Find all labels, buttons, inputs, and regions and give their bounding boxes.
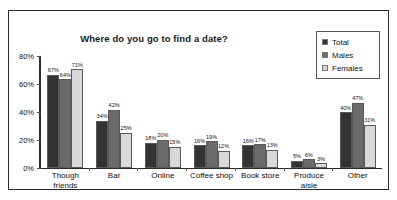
bar-slot: 5% bbox=[291, 57, 303, 168]
category-label: Produceaisle bbox=[285, 171, 334, 190]
category-label-line: Other bbox=[333, 171, 382, 181]
bar-value-label: 16% bbox=[194, 139, 205, 145]
bar-females[interactable] bbox=[120, 133, 132, 168]
bar-males[interactable] bbox=[206, 141, 218, 167]
bar-slot: 40% bbox=[340, 57, 352, 168]
bar-group: 16%17%13% bbox=[236, 57, 285, 168]
bar-males[interactable] bbox=[303, 159, 315, 167]
y-tick-mark: 0% bbox=[37, 168, 41, 169]
category-label: Book store bbox=[236, 171, 285, 190]
bar-value-label: 64% bbox=[60, 73, 71, 79]
category-label: Thoughfriends bbox=[41, 171, 90, 190]
category-label-line: Though bbox=[41, 171, 90, 181]
plot-area: 0%20%40%60%80% 67%64%71%34%42%25%18%20%1… bbox=[39, 57, 382, 169]
bar-males[interactable] bbox=[254, 144, 266, 167]
y-tick-label: 0% bbox=[23, 164, 34, 173]
bar-males[interactable] bbox=[108, 110, 120, 168]
chart-frame: Where do you go to find a date? TotalMal… bbox=[8, 10, 389, 190]
bar-value-label: 6% bbox=[305, 153, 313, 159]
bar-total[interactable] bbox=[96, 121, 108, 168]
bar-females[interactable] bbox=[364, 125, 376, 168]
bar-group: 34%42%25% bbox=[90, 57, 139, 168]
bar-total[interactable] bbox=[194, 145, 206, 167]
bar-group: 18%20%15% bbox=[138, 57, 187, 168]
bar-value-label: 15% bbox=[169, 140, 180, 146]
bar-group: 40%47%31% bbox=[333, 57, 382, 168]
bar-value-label: 47% bbox=[352, 96, 363, 102]
y-tick-label: 40% bbox=[19, 108, 34, 117]
bar-value-label: 3% bbox=[317, 157, 325, 163]
bar-total[interactable] bbox=[291, 161, 303, 168]
bar-slot: 3% bbox=[315, 57, 327, 168]
bar-group: 67%64%71% bbox=[41, 57, 90, 168]
bar-slot: 47% bbox=[352, 57, 364, 168]
category-label-line: Bar bbox=[90, 171, 139, 181]
bar-males[interactable] bbox=[59, 79, 71, 167]
bar-slot: 71% bbox=[71, 57, 83, 168]
category-label: Coffee shop bbox=[187, 171, 236, 190]
bar-females[interactable] bbox=[71, 69, 83, 167]
bar-value-label: 20% bbox=[157, 133, 168, 139]
bar-slot: 34% bbox=[96, 57, 108, 168]
bar-value-label: 16% bbox=[243, 139, 254, 145]
bar-females[interactable] bbox=[315, 163, 327, 167]
bar-slot: 16% bbox=[242, 57, 254, 168]
bar-value-label: 25% bbox=[121, 126, 132, 132]
y-tick-label: 60% bbox=[19, 80, 34, 89]
bar-slot: 42% bbox=[108, 57, 120, 168]
bar-value-label: 17% bbox=[255, 138, 266, 144]
chart-title: Where do you go to find a date? bbox=[9, 33, 299, 44]
bar-slot: 17% bbox=[254, 57, 266, 168]
bar-females[interactable] bbox=[266, 150, 278, 168]
y-tick-label: 20% bbox=[19, 136, 34, 145]
bar-value-label: 12% bbox=[218, 144, 229, 150]
bar-females[interactable] bbox=[169, 147, 181, 168]
category-label-line: friends bbox=[41, 181, 90, 191]
bar-value-label: 42% bbox=[109, 103, 120, 109]
category-label-line: aisle bbox=[285, 181, 334, 191]
bar-value-label: 19% bbox=[206, 135, 217, 141]
bar-slot: 12% bbox=[218, 57, 230, 168]
bar-value-label: 5% bbox=[293, 154, 301, 160]
bar-value-label: 71% bbox=[72, 63, 83, 69]
bar-slot: 13% bbox=[266, 57, 278, 168]
bar-slot: 25% bbox=[120, 57, 132, 168]
bar-total[interactable] bbox=[340, 112, 352, 167]
bar-value-label: 31% bbox=[364, 118, 375, 124]
bar-groups: 67%64%71%34%42%25%18%20%15%16%19%12%16%1… bbox=[41, 57, 382, 168]
legend-swatch-icon bbox=[322, 39, 328, 45]
bar-value-label: 18% bbox=[145, 136, 156, 142]
bar-value-label: 34% bbox=[97, 114, 108, 120]
bar-group: 5%6%3% bbox=[285, 57, 334, 168]
bar-slot: 31% bbox=[364, 57, 376, 168]
bar-slot: 64% bbox=[59, 57, 71, 168]
bar-total[interactable] bbox=[242, 145, 254, 167]
category-label-line: Produce bbox=[285, 171, 334, 181]
category-label: Other bbox=[333, 171, 382, 190]
bar-total[interactable] bbox=[145, 143, 157, 168]
category-label-line: Online bbox=[138, 171, 187, 181]
bar-slot: 19% bbox=[206, 57, 218, 168]
bar-males[interactable] bbox=[157, 140, 169, 168]
bar-females[interactable] bbox=[218, 151, 230, 168]
category-label: Bar bbox=[90, 171, 139, 190]
category-label-line: Book store bbox=[236, 171, 285, 181]
bar-slot: 16% bbox=[194, 57, 206, 168]
legend-item-label: Total bbox=[332, 38, 349, 47]
bar-slot: 6% bbox=[303, 57, 315, 168]
bar-group: 16%19%12% bbox=[187, 57, 236, 168]
category-label: Online bbox=[138, 171, 187, 190]
bar-total[interactable] bbox=[47, 75, 59, 168]
x-axis-category-labels: ThoughfriendsBarOnlineCoffee shopBook st… bbox=[41, 171, 382, 190]
bar-slot: 67% bbox=[47, 57, 59, 168]
bar-value-label: 67% bbox=[48, 68, 59, 74]
bar-slot: 18% bbox=[145, 57, 157, 168]
bar-value-label: 13% bbox=[267, 143, 278, 149]
bar-slot: 15% bbox=[169, 57, 181, 168]
category-label-line: Coffee shop bbox=[187, 171, 236, 181]
bar-slot: 20% bbox=[157, 57, 169, 168]
legend-item-total[interactable]: Total bbox=[322, 36, 375, 48]
x-axis-line bbox=[39, 168, 382, 170]
y-tick-label: 80% bbox=[19, 52, 34, 61]
bar-males[interactable] bbox=[352, 103, 364, 168]
